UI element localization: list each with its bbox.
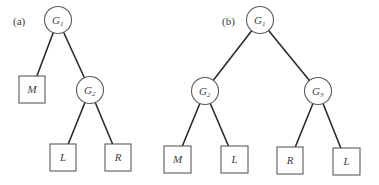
node-b-m: M [164, 146, 191, 173]
panel-a-label: (a) [13, 15, 26, 28]
node-b-g1: G1 [247, 7, 274, 34]
panel-b: (b) G1 G2 G3 M L [164, 7, 360, 176]
node-b-l2: L [333, 148, 360, 175]
node-b-l2-label: L [342, 155, 349, 167]
node-b-r: R [277, 147, 303, 174]
node-b-g3: G3 [305, 78, 332, 105]
node-a-m-label: M [26, 83, 37, 95]
node-b-r-label: R [286, 154, 294, 166]
node-a-g1: G1 [45, 7, 72, 34]
panel-b-label: (b) [222, 15, 235, 28]
node-a-m: M [19, 76, 45, 103]
node-a-r-label: R [114, 151, 122, 163]
node-a-g2: G2 [77, 77, 104, 104]
node-a-r: R [105, 144, 131, 171]
node-a-l-label: L [59, 151, 66, 163]
game-tree-diagram: (a) G1 M G2 L R (b) [0, 0, 379, 185]
node-b-m-label: M [172, 153, 183, 165]
node-b-l1-label: L [230, 153, 237, 165]
node-a-l: L [50, 144, 76, 171]
panel-a: (a) G1 M G2 L R [13, 7, 131, 172]
node-b-l1: L [221, 146, 248, 173]
node-b-g2: G2 [192, 78, 219, 105]
